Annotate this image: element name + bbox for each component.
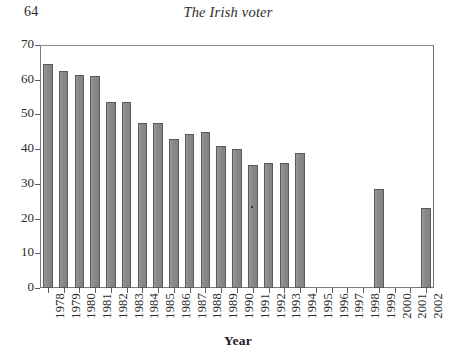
x-axis-tick-label: 1992 [274, 293, 289, 319]
x-axis-tick-label: 2002 [431, 293, 446, 319]
x-axis-tick-label: 1981 [100, 293, 115, 319]
x-axis-tick-label: 1983 [132, 293, 147, 319]
x-axis-tick-label: 1986 [179, 293, 194, 319]
x-axis-tick-label: 1989 [226, 293, 241, 319]
x-axis-tick-labels: 1978197919801981198219831984198519861987… [0, 0, 456, 360]
x-axis-tick-label: 1999 [384, 293, 399, 319]
x-axis-tick-label: 1998 [368, 293, 383, 319]
x-axis-tick-label: 1984 [147, 293, 162, 319]
x-axis-tick-label: 1978 [53, 293, 68, 319]
x-axis-tick-label: 1997 [352, 293, 367, 319]
x-axis-tick-label: 2000 [400, 293, 415, 319]
x-axis-title: Year [0, 333, 456, 349]
x-axis-tick-label: 1995 [321, 293, 336, 319]
x-axis-tick-label: 1988 [210, 293, 225, 319]
x-axis-tick-label: 1996 [337, 293, 352, 319]
x-axis-tick-label: 1982 [116, 293, 131, 319]
x-axis-tick-label: 1993 [289, 293, 304, 319]
x-axis-tick-label: 1990 [242, 293, 257, 319]
x-axis-tick-label: 1991 [258, 293, 273, 319]
x-axis-tick-label: 1979 [69, 293, 84, 319]
x-axis-tick-label: 1994 [305, 293, 320, 319]
x-axis-tick-label: 1985 [163, 293, 178, 319]
bar-chart-figure: 010203040506070 197819791980198119821983… [0, 0, 456, 360]
x-axis-tick-label: 1987 [195, 293, 210, 319]
x-axis-tick-label: 2001 [415, 293, 430, 319]
x-axis-tick-label: 1980 [84, 293, 99, 319]
